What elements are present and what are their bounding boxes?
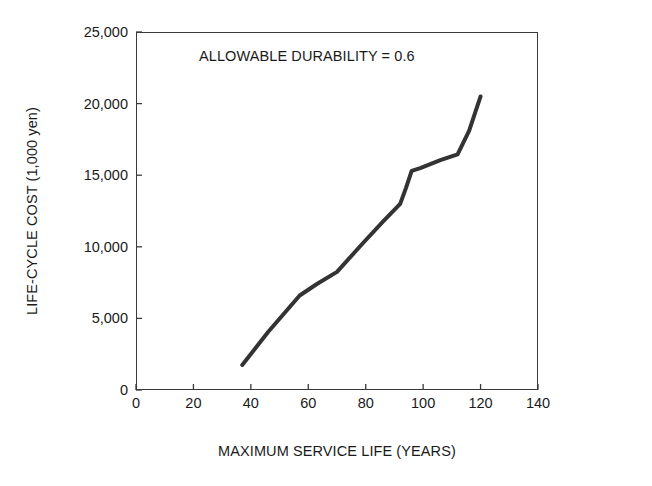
x-axis-tick-label: 140 [508,396,568,411]
y-axis-title: LIFE-CYCLE COST (1,000 yen) [24,46,40,376]
plot-annotation-allowable-durability: ALLOWABLE DURABILITY = 0.6 [199,48,415,64]
plot-area-frame [136,32,538,390]
y-axis-tick-label: 20,000 [84,97,128,112]
y-axis-tick-label: 15,000 [84,168,128,183]
y-axis-tick-label: 5,000 [92,311,128,326]
x-axis-tick-label: 120 [451,396,511,411]
chart-figure: 05,00010,00015,00020,00025,000 020406080… [0,0,652,486]
x-axis-tick-label: 100 [393,396,453,411]
x-axis-tick-label: 80 [336,396,396,411]
x-axis-tick-label: 40 [221,396,281,411]
x-axis-tick-label: 0 [106,396,166,411]
x-axis-tick-label: 20 [163,396,223,411]
x-axis-title: MAXIMUM SERVICE LIFE (YEARS) [136,443,538,459]
y-axis-tick-label: 10,000 [84,240,128,255]
y-axis-tick-label: 25,000 [84,25,128,40]
x-axis-tick-label: 60 [278,396,338,411]
